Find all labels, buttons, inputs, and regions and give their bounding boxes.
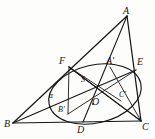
angle-label-alpha: α xyxy=(49,92,53,100)
point-label-F: F xyxy=(59,56,65,66)
point-label-A-prime: A' xyxy=(106,56,114,66)
point-label-B: B xyxy=(4,119,10,129)
figure-canvas xyxy=(0,0,155,139)
point-label-C-prime: C' xyxy=(119,91,126,99)
point-label-D: D xyxy=(77,125,84,135)
side-BC xyxy=(13,121,141,123)
point-label-C: C xyxy=(142,122,149,132)
point-label-S: S xyxy=(81,76,85,84)
point-label-B-prime: B' xyxy=(58,106,65,114)
side-AB xyxy=(13,16,127,123)
geometry-figure: A B C D E F A' B' C' O S α xyxy=(0,0,155,139)
point-label-E: E xyxy=(137,57,143,67)
point-label-A: A xyxy=(123,6,129,16)
cevian-B-E xyxy=(13,70,136,123)
point-label-O: O xyxy=(92,97,99,107)
